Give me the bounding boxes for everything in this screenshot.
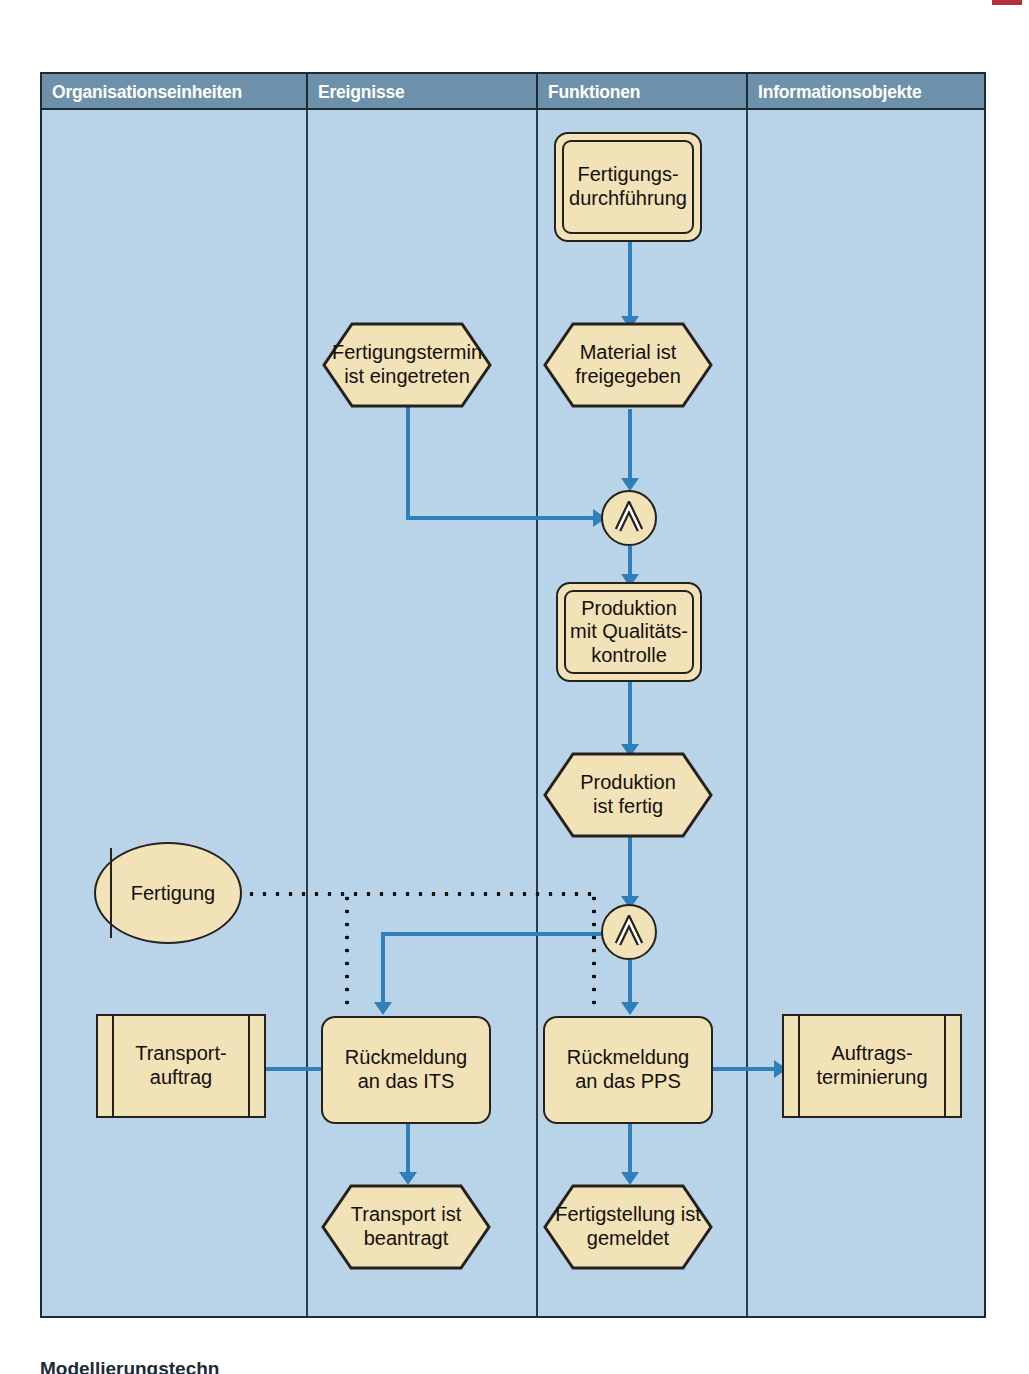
edge-fertigungsdurchfuehrung-material (628, 242, 632, 320)
assignment-fertigung-horizontal (232, 892, 596, 896)
node-produktion-ist-fertig[interactable]: Produktionist fertig (543, 752, 713, 838)
edge-material-and1 (628, 409, 632, 485)
page-edge-mark (992, 0, 1022, 5)
edge-and2-its-horizontal (381, 932, 611, 936)
node-fertigung-org-unit[interactable]: Fertigung (94, 842, 242, 944)
column-header-label: Funktionen (548, 82, 640, 103)
column-separator-3 (746, 110, 748, 1316)
and-operator-icon (612, 501, 646, 535)
column-header-label: Informationsobjekte (758, 82, 921, 103)
node-fertigstellung-ist-gemeldet[interactable]: Fertigstellung istgemeldet (543, 1184, 713, 1270)
node-rueckmeldung-its[interactable]: Rückmeldungan das ITS (321, 1016, 491, 1124)
assignment-fertigung-to-its (345, 892, 349, 1012)
node-label: Fertigstellung istgemeldet (555, 1203, 701, 1250)
edge-and2-its-vertical (381, 932, 385, 1012)
arrowhead-down (621, 1002, 639, 1015)
node-label: Produktionist fertig (580, 771, 676, 818)
node-label: Auftrags-terminierung (816, 1042, 927, 1089)
column-header-ereignisse: Ereignisse (308, 74, 536, 110)
epc-diagram: Organisationseinheiten Ereignisse Funkti… (40, 72, 986, 1318)
node-fertigungstermin[interactable]: Fertigungsterminist eingetreten (322, 322, 492, 408)
assignment-fertigung-to-pps (592, 892, 596, 1012)
node-auftragsterminierung[interactable]: Auftrags-terminierung (782, 1014, 962, 1118)
and-operator-icon (612, 915, 646, 949)
edge-pps-auftragsterminierung (712, 1067, 780, 1071)
node-label: Transport-auftrag (135, 1042, 227, 1089)
node-label: Transport istbeantragt (351, 1203, 461, 1250)
column-header-informationsobjekte: Informationsobjekte (748, 74, 984, 110)
node-label: Fertigungsterminist eingetreten (332, 341, 482, 388)
node-and-connector-1[interactable] (601, 490, 657, 546)
column-separator-1 (306, 110, 308, 1316)
node-label: Rückmeldungan das PPS (561, 1046, 695, 1093)
figure-caption: Modellierungstechn (40, 1358, 219, 1374)
arrowhead-down (374, 1002, 392, 1015)
column-header-bar: Organisationseinheiten Ereignisse Funkti… (42, 74, 984, 110)
column-header-funktionen: Funktionen (538, 74, 746, 110)
node-label: Fertigung (121, 882, 216, 905)
node-transportauftrag[interactable]: Transport-auftrag (96, 1014, 266, 1118)
node-label: Produktionmit Qualitäts-kontrolle (564, 597, 694, 668)
node-fertigungsdurchfuehrung[interactable]: Fertigungs-durchführung (554, 132, 702, 242)
node-material-freigegeben[interactable]: Material istfreigegeben (543, 322, 713, 408)
node-label: Fertigungs-durchführung (563, 163, 693, 210)
column-header-label: Ereignisse (318, 82, 405, 103)
edge-fertigungstermin-down (406, 404, 410, 519)
node-transport-ist-beantragt[interactable]: Transport istbeantragt (321, 1184, 491, 1270)
column-header-organisationseinheiten: Organisationseinheiten (42, 74, 306, 110)
edge-its-transportauftrag (266, 1067, 321, 1071)
column-separator-2 (536, 110, 538, 1316)
edge-fertigungstermin-right (406, 516, 599, 520)
node-rueckmeldung-pps[interactable]: Rückmeldungan das PPS (543, 1016, 713, 1124)
node-and-connector-2[interactable] (601, 904, 657, 960)
node-label: Material istfreigegeben (575, 341, 681, 388)
node-produktion-qualitaetskontrolle[interactable]: Produktionmit Qualitäts-kontrolle (556, 582, 702, 682)
column-header-label: Organisationseinheiten (52, 82, 242, 103)
node-label: Rückmeldungan das ITS (339, 1046, 473, 1093)
